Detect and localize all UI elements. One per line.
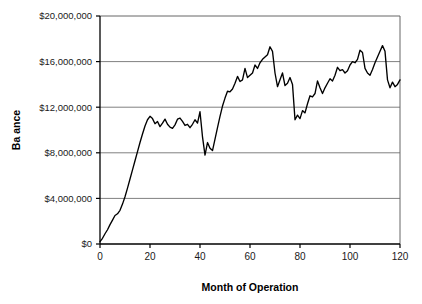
y-tick-label: $8,000,000	[44, 147, 92, 158]
x-tick-label: 80	[294, 251, 306, 262]
chart-canvas: $0$4,000,000$8,000,000$12,000,000$16,000…	[0, 0, 422, 304]
x-tick-label: 120	[392, 251, 409, 262]
balance-line-chart: $0$4,000,000$8,000,000$12,000,000$16,000…	[0, 0, 422, 304]
x-tick-label: 100	[342, 251, 359, 262]
y-tick-label: $20,000,000	[39, 10, 92, 21]
y-tick-label: $16,000,000	[39, 56, 92, 67]
x-axis-title: Month of Operation	[202, 281, 299, 293]
x-tick-label: 60	[244, 251, 256, 262]
y-tick-label: $4,000,000	[44, 193, 92, 204]
y-tick-label: $12,000,000	[39, 102, 92, 113]
x-tick-label: 20	[144, 251, 156, 262]
y-tick-label: $0	[81, 238, 92, 249]
x-tick-label: 0	[97, 251, 103, 262]
x-tick-label: 40	[194, 251, 206, 262]
y-axis-title: Ba ance	[10, 110, 22, 150]
